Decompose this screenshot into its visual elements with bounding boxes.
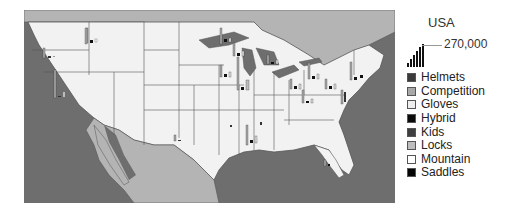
legend-label: Hybrid xyxy=(421,112,456,125)
legend-title: USA xyxy=(428,15,455,30)
legend-item-gloves[interactable]: Gloves xyxy=(407,98,485,112)
swatch-gloves xyxy=(407,100,416,109)
legend-label: Locks xyxy=(421,139,452,152)
scale-leader-line xyxy=(422,45,442,46)
swatch-saddles xyxy=(407,168,416,177)
swatch-kids xyxy=(407,128,416,137)
legend-item-helmets[interactable]: Helmets xyxy=(407,71,485,85)
legend-label: Mountain xyxy=(421,153,470,166)
legend-label: Saddles xyxy=(421,166,464,179)
legend-items: Helmets Competition Gloves Hybrid Kids L… xyxy=(407,71,485,180)
swatch-mountain xyxy=(407,155,416,164)
legend: USA 270,000 Helmets Competition Gloves H… xyxy=(400,10,506,200)
legend-item-competition[interactable]: Competition xyxy=(407,85,485,99)
legend-item-hybrid[interactable]: Hybrid xyxy=(407,112,485,126)
swatch-helmets xyxy=(407,73,416,82)
swatch-locks xyxy=(407,141,416,150)
legend-item-saddles[interactable]: Saddles xyxy=(407,166,485,180)
legend-max-value: 270,000 xyxy=(444,37,487,51)
swatch-hybrid xyxy=(407,114,416,123)
usa-map[interactable] xyxy=(24,10,395,203)
legend-item-locks[interactable]: Locks xyxy=(407,139,485,153)
legend-label: Competition xyxy=(421,85,485,98)
legend-label: Gloves xyxy=(421,98,458,111)
map-canvas xyxy=(24,10,395,203)
legend-label: Kids xyxy=(421,126,444,139)
legend-label: Helmets xyxy=(421,71,465,84)
legend-item-mountain[interactable]: Mountain xyxy=(407,153,485,167)
bar-scale-icon xyxy=(407,44,427,67)
legend-item-kids[interactable]: Kids xyxy=(407,125,485,139)
swatch-competition xyxy=(407,87,416,96)
